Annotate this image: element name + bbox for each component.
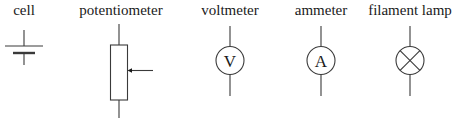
cell-symbol	[5, 30, 43, 65]
circuit-symbols-diagram: V A	[0, 0, 452, 120]
potentiometer-symbol	[111, 24, 154, 118]
ammeter-letter: A	[315, 52, 328, 71]
arrowhead-icon	[128, 68, 133, 72]
voltmeter-letter: V	[224, 52, 237, 71]
filament-lamp-symbol	[396, 26, 424, 96]
